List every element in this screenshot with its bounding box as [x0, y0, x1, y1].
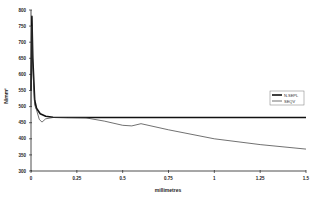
legend-label-seqv: SEQV: [284, 99, 295, 104]
y-tick-label: 650: [18, 56, 26, 61]
series-line-nsepl: [31, 16, 306, 117]
y-tick-label: 500: [18, 104, 26, 109]
y-tick-label: 600: [18, 72, 26, 77]
series-line-seqv: [31, 26, 306, 149]
y-axis: 800750700650600550500450400350300: [18, 8, 32, 174]
x-tick-label: 0.5: [120, 176, 127, 181]
x-axis-title: millimetres: [155, 187, 182, 193]
y-tick-label: 450: [18, 120, 26, 125]
x-tick-label: 0.25: [72, 176, 81, 181]
y-tick-label: 550: [18, 88, 26, 93]
y-tick-label: 300: [18, 169, 26, 174]
y-tick-label: 750: [18, 24, 26, 29]
series-layer: [31, 16, 306, 149]
x-tick-label: 0.75: [164, 176, 173, 181]
y-tick-label: 350: [18, 153, 26, 158]
y-tick-label: 800: [18, 8, 26, 13]
stress-line-chart: 800750700650600550500450400350300 00.250…: [0, 0, 314, 198]
x-tick-label: 1.25: [256, 176, 265, 181]
legend: N.SEPL SEQV: [270, 91, 304, 105]
legend-label-nsepl: N.SEPL: [284, 93, 299, 98]
y-tick-label: 400: [18, 136, 26, 141]
y-tick-label: 700: [18, 40, 26, 45]
x-tick-label: 1: [213, 176, 216, 181]
x-tick-label: 1.5: [303, 176, 310, 181]
x-axis: 00.250.50.7511.251.5: [30, 170, 310, 181]
x-tick-label: 0: [30, 176, 33, 181]
y-axis-title: N/mm²: [3, 88, 9, 104]
